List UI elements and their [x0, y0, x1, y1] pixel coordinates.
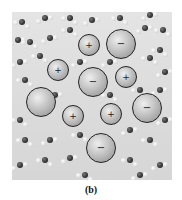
ion-solution-illustration: +−+−+−++−: [12, 12, 172, 180]
anion: −: [78, 67, 108, 97]
anion: −: [106, 29, 136, 59]
cation: +: [47, 59, 69, 81]
anion: −: [86, 133, 116, 163]
cation: +: [115, 66, 137, 88]
anion: [26, 87, 56, 117]
cation: +: [62, 105, 84, 127]
anion: −: [132, 93, 162, 123]
figure-caption: (b): [0, 184, 182, 195]
cation: +: [78, 34, 100, 56]
cation: +: [100, 103, 122, 125]
